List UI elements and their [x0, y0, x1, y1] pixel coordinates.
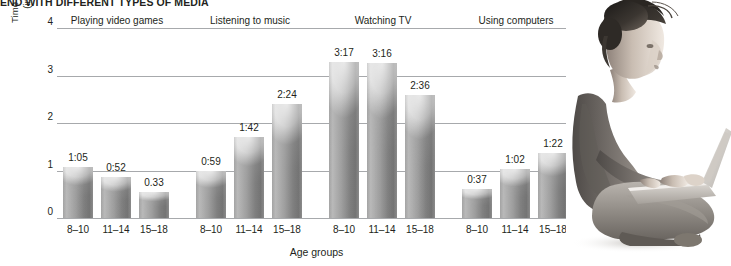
- bar-value-label: 0:52: [106, 162, 125, 173]
- bar-value-label: 1:42: [239, 122, 258, 133]
- bar[interactable]: 3:16: [367, 63, 397, 218]
- gridline-rule: [57, 76, 576, 77]
- y-axis-title: Time spent in activity per day (in hours…: [9, 0, 33, 46]
- gridline-rule: [57, 123, 576, 124]
- bar[interactable]: 0:59: [196, 171, 226, 218]
- bar[interactable]: 1:22: [538, 153, 568, 218]
- woman-with-laptop-photo: [566, 0, 731, 266]
- group-header-underline: [323, 28, 443, 29]
- x-tick-label: 15–18: [264, 224, 310, 235]
- x-tick-label: 15–18: [131, 224, 177, 235]
- y-tick-label: 4: [41, 16, 53, 27]
- gridline-rule: [57, 218, 576, 219]
- bar-value-label: 2:36: [410, 80, 429, 91]
- bar[interactable]: 0:52: [101, 177, 131, 218]
- y-tick-label: 0: [41, 206, 53, 217]
- bar[interactable]: 1:05: [63, 167, 93, 218]
- bar-value-label: 0.33: [144, 177, 163, 188]
- bar[interactable]: 2:24: [272, 104, 302, 218]
- bar[interactable]: 1:02: [500, 169, 530, 218]
- bar[interactable]: 0.33: [139, 192, 169, 218]
- bar-value-label: 1:22: [543, 138, 562, 149]
- bar[interactable]: 0:37: [462, 189, 492, 218]
- group-header-underline: [57, 28, 177, 29]
- y-tick-label: 2: [41, 111, 53, 122]
- group-header-using-computers: Using computers: [456, 15, 576, 26]
- bar-value-label: 2:24: [277, 89, 296, 100]
- bar[interactable]: 2:36: [405, 95, 435, 219]
- group-header-listening-to-music: Listening to music: [190, 15, 310, 26]
- bar-value-label: 1:02: [505, 154, 524, 165]
- bar[interactable]: 1:42: [234, 137, 264, 218]
- x-tick-label: 15–18: [397, 224, 443, 235]
- y-tick-label: 3: [41, 64, 53, 75]
- bar-value-label: 3:17: [334, 47, 353, 58]
- gridline-rule: [57, 171, 576, 172]
- group-header-underline: [190, 28, 310, 29]
- group-header-playing-video-games: Playing video games: [57, 15, 177, 26]
- bar-value-label: 0:59: [201, 156, 220, 167]
- y-axis-title-line2: (in hours and minutes): [21, 0, 33, 46]
- bar[interactable]: 3:17: [329, 62, 359, 218]
- x-axis-title: Age groups: [57, 246, 576, 258]
- media-usage-chart-figure: END WITH DIFFERENT TYPES OF MEDIA Time s…: [0, 0, 731, 266]
- plot-area: Time spent in activity per day (in hours…: [57, 28, 576, 218]
- bar-value-label: 0:37: [467, 174, 486, 185]
- y-tick-label: 1: [41, 159, 53, 170]
- y-axis-title-line1: Time spent in activity per day: [9, 0, 21, 46]
- bar-value-label: 3:16: [372, 48, 391, 59]
- group-header-underline: [456, 28, 576, 29]
- bar-value-label: 1:05: [68, 152, 87, 163]
- group-header-watching-tv: Watching TV: [323, 15, 443, 26]
